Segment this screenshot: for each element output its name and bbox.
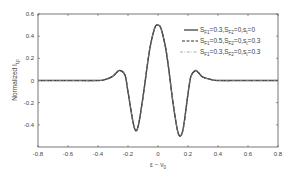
svg-text:0: 0 — [31, 78, 35, 84]
x-axis-label: ε − ν0 — [150, 161, 167, 170]
legend-entry-3: SF1=0.3,SF2=0,st=0.3 — [200, 48, 261, 57]
svg-text:0.4: 0.4 — [26, 33, 35, 39]
legend-entry-2: SF1=0.5,SF2=0,st=0.3 — [200, 37, 261, 46]
svg-text:0.4: 0.4 — [214, 151, 223, 157]
svg-text:0.6: 0.6 — [244, 151, 253, 157]
svg-text:-0.2: -0.2 — [123, 151, 134, 157]
svg-text:-0.4: -0.4 — [93, 151, 104, 157]
chart: -0.8-0.6-0.4-0.200.20.40.60.8 0.60.40.20… — [0, 0, 295, 172]
svg-text:-0.2: -0.2 — [24, 100, 35, 106]
x-axis-ticks: -0.8-0.6-0.4-0.200.20.40.60.8 — [33, 14, 283, 157]
legend: SF1=0.3,SF2=0,st=0 SF1=0.5,SF2=0,st=0.3 … — [180, 26, 261, 57]
svg-text:0.6: 0.6 — [26, 11, 35, 17]
svg-text:0.2: 0.2 — [26, 55, 35, 61]
svg-text:-0.8: -0.8 — [33, 151, 44, 157]
svg-text:0.2: 0.2 — [184, 151, 193, 157]
svg-text:0: 0 — [156, 151, 160, 157]
legend-entry-1: SF1=0.3,SF2=0,st=0 — [200, 26, 255, 35]
svg-text:-0.6: -0.6 — [63, 151, 74, 157]
y-axis-label: Normalized It,p — [11, 59, 20, 101]
svg-text:0.8: 0.8 — [274, 151, 283, 157]
svg-text:-0.4: -0.4 — [24, 122, 35, 128]
